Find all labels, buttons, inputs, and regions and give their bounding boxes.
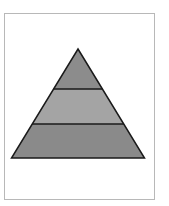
pyramid-level-bottom <box>12 124 145 158</box>
pyramid-level-middle <box>32 89 124 124</box>
pyramid-diagram <box>0 0 169 206</box>
pyramid-level-top <box>54 49 103 89</box>
